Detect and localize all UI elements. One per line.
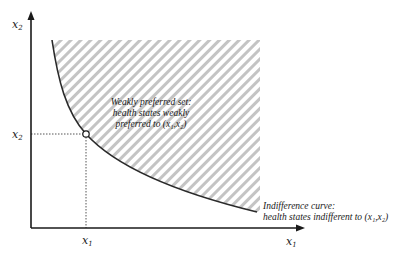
weakly-preferred-title: Weakly preferred set: [96, 97, 206, 108]
x-tick-label: x1 [82, 235, 93, 248]
reference-point-marker [83, 131, 89, 137]
y-tick-label: x2 [12, 129, 23, 142]
indifference-curve-diagram: x2 x2 x1 x1 Weakly preferred set: health… [0, 0, 395, 258]
y-axis-label: x2 [12, 19, 23, 32]
weakly-preferred-desc-1: health states weakly [96, 108, 206, 119]
y-axis-arrow-icon [28, 11, 35, 20]
indifference-curve-title: Indifference curve: [263, 201, 388, 212]
x-axis-arrow-icon [296, 225, 305, 232]
weakly-preferred-set-annotation: Weakly preferred set: health states weak… [96, 97, 206, 130]
x-axis-label: x1 [286, 236, 297, 249]
indifference-curve-annotation: Indifference curve: health states indiff… [263, 201, 388, 223]
weakly-preferred-desc-2: preferred to (x₁,x₂) [96, 119, 206, 130]
indifference-curve-desc: health states indifferent to (x₁,x₂) [263, 212, 388, 223]
